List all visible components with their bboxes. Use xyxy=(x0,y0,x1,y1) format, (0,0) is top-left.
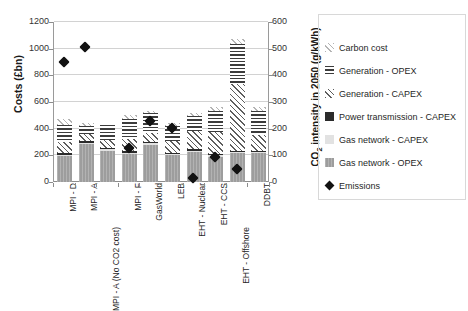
y-tick-right-100: 100 xyxy=(272,149,302,159)
bar-slot xyxy=(183,22,205,182)
y-tickmark-right-300 xyxy=(269,102,273,103)
y-tick-left-1200: 1200 xyxy=(21,16,49,26)
stacked-bar[interactable] xyxy=(230,39,245,182)
x-tickmark xyxy=(139,183,140,187)
bar-segment xyxy=(122,154,137,182)
legend-label: Generation - CAPEX xyxy=(339,89,422,99)
legend-label: Carbon cost xyxy=(339,43,388,53)
legend-label: Gas network - OPEX xyxy=(339,158,423,168)
legend-swatch-icon xyxy=(325,158,334,167)
stacked-bar[interactable] xyxy=(187,113,202,182)
bar-segment xyxy=(251,111,266,135)
x-axis-label: MPI - A xyxy=(89,183,99,211)
bar-segment xyxy=(230,44,245,84)
bar-segment xyxy=(79,126,94,134)
x-tickmark xyxy=(183,183,184,187)
x-axis-label: MPI - D xyxy=(68,183,78,212)
legend-item[interactable]: Gas network - CAPEX xyxy=(325,128,465,151)
diamond-marker-icon xyxy=(325,181,335,191)
stacked-bar[interactable] xyxy=(100,125,115,182)
x-axis-label: EHT - CCS xyxy=(219,183,229,225)
bar-segment xyxy=(143,133,158,142)
bar-segment xyxy=(208,132,223,154)
y-tick-left-0: 0 xyxy=(21,176,49,186)
y-tickmark-right-200 xyxy=(269,129,273,130)
y-tick-right-500: 500 xyxy=(272,43,302,53)
y-tickmark-right-400 xyxy=(269,75,273,76)
bar-slot xyxy=(96,22,118,182)
y-tick-right-400: 400 xyxy=(272,69,302,79)
bar-slot xyxy=(53,22,75,182)
y-tickmark-right-100 xyxy=(269,155,273,156)
stacked-bar[interactable] xyxy=(251,107,266,182)
bar-segment xyxy=(79,134,94,141)
legend-item[interactable]: Carbon cost xyxy=(325,36,465,59)
legend-item[interactable]: Emissions xyxy=(325,174,465,197)
x-tickmark xyxy=(269,183,270,187)
x-axis-label: MPI - F xyxy=(133,183,143,211)
y-tick-left-600: 600 xyxy=(21,96,49,106)
x-tickmark xyxy=(247,183,248,187)
legend-swatch-icon xyxy=(325,135,334,144)
legend-item[interactable]: Generation - CAPEX xyxy=(325,82,465,105)
bar-slot xyxy=(118,22,140,182)
y-tick-left-800: 800 xyxy=(21,69,49,79)
bar-segment xyxy=(187,116,202,131)
x-tickmark xyxy=(96,183,97,187)
legend-item[interactable]: Power transmission - CAPEX xyxy=(325,105,465,128)
x-tickmark xyxy=(53,183,54,187)
bar-slot xyxy=(139,22,161,182)
legend-label: Gas network - CAPEX xyxy=(339,135,428,145)
legend-swatch-icon xyxy=(325,89,334,98)
x-axis-label: GasWorld xyxy=(154,183,164,221)
y-tick-left-1000: 1000 xyxy=(21,43,49,53)
legend-swatch-icon xyxy=(325,43,334,52)
x-tickmark xyxy=(75,183,76,187)
bar-series-group xyxy=(53,22,269,182)
legend-swatch-icon xyxy=(325,112,334,121)
legend: Carbon costGeneration - OPEXGeneration -… xyxy=(325,36,465,197)
y-tick-right-300: 300 xyxy=(272,96,302,106)
bar-segment xyxy=(57,125,72,142)
bar-slot xyxy=(247,22,269,182)
bar-segment xyxy=(230,84,245,151)
stacked-bar[interactable] xyxy=(79,123,94,182)
x-axis-label: DDBT xyxy=(262,183,272,206)
bar-segment xyxy=(100,125,115,140)
bar-slot xyxy=(161,22,183,182)
y-tickmark-right-500 xyxy=(269,49,273,50)
y-tick-left-400: 400 xyxy=(21,123,49,133)
bar-segment xyxy=(100,140,115,148)
x-tickmark xyxy=(161,183,162,187)
x-axis-labels: MPI - DMPI - AMPI - A (No CO2 cost)MPI -… xyxy=(53,183,269,283)
y-tick-right-200: 200 xyxy=(272,123,302,133)
legend-label: Emissions xyxy=(339,181,380,191)
bar-segment xyxy=(122,119,137,139)
bar-slot xyxy=(226,22,248,182)
x-axis-label: EHT - Offshore xyxy=(241,227,251,284)
bar-segment xyxy=(187,131,202,150)
bar-segment xyxy=(57,142,72,153)
stacked-bar[interactable] xyxy=(208,107,223,182)
legend-item[interactable]: Generation - OPEX xyxy=(325,59,465,82)
x-tickmark xyxy=(118,183,119,187)
bar-segment xyxy=(165,141,180,152)
x-tickmark xyxy=(204,183,205,187)
y-tick-right-0: 0 xyxy=(272,176,302,186)
bar-segment xyxy=(100,151,115,182)
legend-label: Generation - OPEX xyxy=(339,66,417,76)
x-axis-label: EHT - Nuclear xyxy=(197,183,207,237)
y-tick-right-600: 600 xyxy=(272,16,302,26)
y-tickmark-right-600 xyxy=(269,22,273,23)
bar-segment xyxy=(251,135,266,150)
bar-segment xyxy=(57,156,72,182)
bar-segment xyxy=(143,145,158,182)
bar-segment xyxy=(208,111,223,132)
legend-swatch-icon xyxy=(325,66,334,75)
bar-segment xyxy=(251,153,266,182)
legend-item[interactable]: Gas network - OPEX xyxy=(325,151,465,174)
bar-segment xyxy=(165,155,180,182)
x-tickmark xyxy=(226,183,227,187)
stacked-bar[interactable] xyxy=(57,119,72,182)
